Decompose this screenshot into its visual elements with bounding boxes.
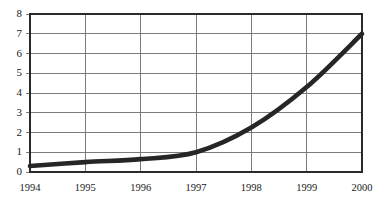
x-axis-tick-label: 1995	[75, 182, 96, 193]
line-chart: 012345678 1994199519961997199819992000	[0, 0, 384, 215]
x-axis-tick-label: 1994	[20, 182, 42, 193]
y-axis-tick-label: 0	[17, 165, 23, 177]
y-axis-tick-label: 5	[17, 66, 23, 78]
chart-container: 012345678 1994199519961997199819992000	[0, 0, 384, 215]
y-axis-tick-label: 1	[17, 145, 23, 157]
y-axis-tick-label: 6	[17, 47, 23, 59]
y-axis-tick-labels: 012345678	[17, 7, 23, 177]
x-axis-tick-label: 2000	[352, 182, 373, 193]
y-axis-tick-label: 8	[17, 7, 23, 19]
x-axis-tick-label: 1999	[296, 182, 317, 193]
x-axis-tick-labels: 1994199519961997199819992000	[20, 182, 373, 193]
x-axis-tick-label: 1997	[186, 182, 207, 193]
y-axis-tick-label: 3	[17, 106, 23, 118]
y-axis-tick-label: 7	[17, 27, 23, 39]
y-axis-tick-label: 4	[17, 86, 23, 98]
x-axis-tick-label: 1998	[241, 182, 262, 193]
x-axis-tick-label: 1996	[130, 182, 151, 193]
y-axis-tick-label: 2	[17, 126, 23, 138]
horizontal-gridlines	[26, 14, 362, 172]
